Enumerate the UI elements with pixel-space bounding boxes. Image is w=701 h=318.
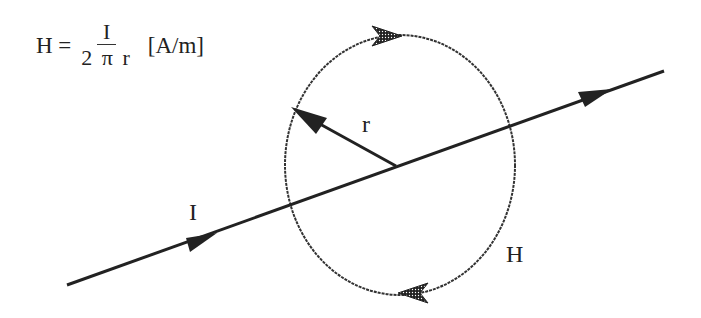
current-arrow-upper-icon <box>578 89 612 107</box>
current-arrow-lower-icon <box>186 233 217 252</box>
field-arrow-top-icon <box>372 26 402 46</box>
radius-arrow-icon <box>291 107 327 134</box>
diagram-graphics: r I H <box>0 0 701 318</box>
label-field: H <box>506 241 523 267</box>
label-radius: r <box>362 111 370 137</box>
label-current: I <box>189 199 197 225</box>
current-wire <box>67 71 664 285</box>
diagram-canvas: H = I 2 π r [A/m] r I H <box>0 0 701 318</box>
